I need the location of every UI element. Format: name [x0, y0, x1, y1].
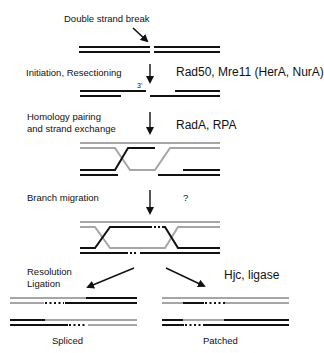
homology-proteins: RadA, RPA [176, 118, 236, 132]
dsb-arrow [133, 28, 147, 41]
initiation-proteins: Rad50, Mre11 (HerA, NurA) [176, 65, 324, 79]
resolution-label-2: Ligation [27, 278, 60, 289]
resolution-proteins: Hjc, ligase [224, 268, 279, 282]
dsb-duplex [79, 47, 220, 52]
holliday-junction [80, 222, 220, 253]
homology-label-2: and strand exchange [27, 123, 116, 134]
three-prime-label: 3' [137, 82, 142, 89]
homology-label-1: Homology pairing [27, 111, 101, 122]
patched-product [162, 298, 289, 325]
arrow-to-spliced [88, 268, 134, 287]
strand-exchange [80, 143, 220, 175]
branch-label: Branch migration [27, 192, 99, 203]
arrow-to-patched [166, 268, 204, 286]
dsb-label: Double strand break [64, 13, 150, 24]
initiation-label: Initiation, Resectioning [26, 67, 122, 78]
branch-proteins: ? [183, 192, 188, 203]
spliced-product [10, 298, 137, 325]
resected-duplex [80, 91, 220, 96]
spliced-label: Spliced [52, 335, 83, 346]
patched-label: Patched [203, 335, 238, 346]
resolution-label-1: Resolution [27, 266, 72, 277]
